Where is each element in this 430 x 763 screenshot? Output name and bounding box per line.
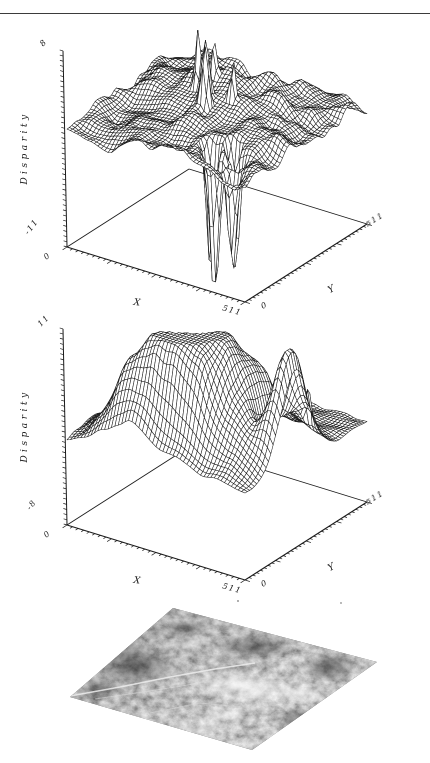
x-axis-title: X bbox=[133, 297, 141, 307]
bright-patch bbox=[270, 681, 330, 705]
disparity-surface-plot-1: 8 Disparity -11 0 X 511 0 Y 511 bbox=[0, 30, 430, 320]
aerial-image-region bbox=[40, 595, 400, 763]
disparity-surface-1-canvas bbox=[0, 30, 430, 320]
disparity-surface-2-canvas bbox=[0, 308, 430, 598]
bright-patch bbox=[171, 721, 221, 741]
scan-speck bbox=[340, 602, 342, 604]
dark-forest-patch bbox=[270, 706, 340, 734]
scanned-paper-page: { "page": { "background": "#ffffff", "to… bbox=[0, 0, 430, 763]
page-top-rule bbox=[0, 13, 430, 14]
z-axis-title: Disparity bbox=[20, 389, 29, 462]
x-axis-title: X bbox=[133, 575, 141, 585]
scan-speck bbox=[237, 600, 239, 602]
dark-forest-patch bbox=[215, 633, 295, 661]
disparity-surface-plot-2: 11 Disparity -8 0 X 511 0 Y 511 bbox=[0, 308, 430, 598]
dark-forest-patch bbox=[160, 619, 210, 637]
z-axis-title: Disparity bbox=[20, 111, 29, 184]
aerial-ground-photo bbox=[0, 595, 430, 763]
dark-forest-patch bbox=[300, 651, 360, 683]
